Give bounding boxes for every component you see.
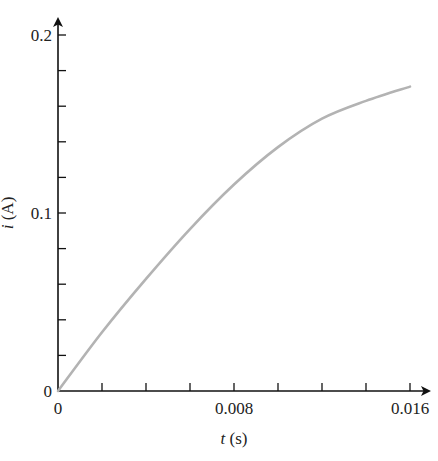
axes	[58, 22, 426, 391]
y-tick-label: 0.1	[31, 204, 52, 223]
y-tick-label: 0.2	[31, 26, 52, 45]
y-axis-label: i (A)	[0, 197, 17, 230]
y-tick-label: 0	[44, 382, 53, 401]
data-series	[58, 87, 410, 391]
ticks	[58, 35, 410, 391]
x-axis-label: t (s)	[221, 429, 248, 448]
x-tick-label: 0.008	[215, 399, 253, 418]
x-tick-label: 0	[54, 399, 63, 418]
axis-titles: t (s)i (A)	[0, 197, 247, 448]
tick-labels: 00.0080.01600.10.2	[31, 26, 429, 418]
x-tick-label: 0.016	[391, 399, 429, 418]
current-curve	[58, 87, 410, 391]
chart: 00.0080.01600.10.2 t (s)i (A)	[0, 0, 438, 461]
